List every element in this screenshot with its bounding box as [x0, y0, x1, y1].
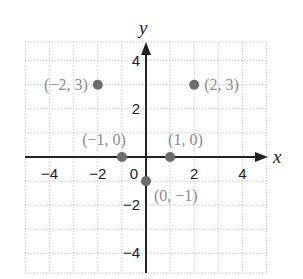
data-points: (−2, 3)(2, 3)(−1, 0)(1, 0)(0, −1) [44, 76, 239, 205]
y-axis-label: y [137, 17, 148, 38]
data-point [117, 152, 127, 162]
point-label: (2, 3) [204, 76, 239, 94]
data-point [165, 152, 175, 162]
data-point [189, 80, 199, 90]
axes: x y [25, 17, 282, 273]
y-tick-label: 2 [132, 100, 140, 117]
y-axis-arrow-icon [141, 42, 151, 55]
point-label: (0, −1) [154, 187, 198, 205]
x-tick-label: 0 [130, 165, 138, 182]
coordinate-plane: x y −4−202442−2−4 (−2, 3)(2, 3)(−1, 0)(1… [0, 0, 303, 279]
x-tick-label: 4 [238, 165, 246, 182]
y-tick-label: 4 [132, 52, 140, 69]
x-tick-label: −4 [41, 165, 58, 182]
point-label: (−1, 0) [82, 131, 126, 149]
data-point [141, 176, 151, 186]
x-tick-label: 2 [190, 165, 198, 182]
x-tick-label: −2 [89, 165, 106, 182]
y-tick-label: −4 [123, 244, 140, 261]
x-axis-label: x [272, 146, 282, 167]
y-tick-label: −2 [123, 196, 140, 213]
point-label: (−2, 3) [44, 76, 88, 94]
data-point [93, 80, 103, 90]
point-label: (1, 0) [168, 131, 203, 149]
